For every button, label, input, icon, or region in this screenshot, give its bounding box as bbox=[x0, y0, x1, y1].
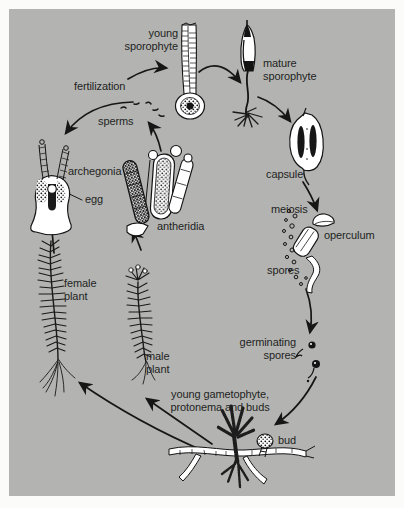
label-young-sporophyte: young sporophyte bbox=[116, 27, 178, 52]
drawing-operculum bbox=[291, 214, 334, 293]
drawing-protonema bbox=[169, 406, 315, 487]
drawing-archegonia bbox=[31, 140, 72, 235]
label-female-plant: female plant bbox=[64, 277, 96, 302]
egg-cell bbox=[48, 185, 57, 194]
drawing-female-plant bbox=[38, 240, 75, 396]
arrow-germinating-spores-to-bud bbox=[276, 377, 316, 424]
arrow-antheridia-to-sperms bbox=[149, 123, 161, 151]
label-archegonia: archegonia bbox=[68, 165, 121, 178]
label-antheridia: antheridia bbox=[157, 220, 204, 233]
arrow-mature-sporophyte-to-capsule bbox=[258, 97, 290, 121]
label-germinating-spores: germinating spores bbox=[236, 336, 296, 361]
arrow-fertilization-to-young-sporophyte bbox=[128, 68, 166, 79]
label-young-gametophyte: young gametophyte, protonema and buds bbox=[166, 388, 274, 413]
diagram-artwork bbox=[0, 0, 404, 508]
figure-frame: young sporophyte mature sporophyte ferti… bbox=[0, 0, 404, 508]
label-male-plant: male plant bbox=[146, 350, 169, 375]
label-operculum: operculum bbox=[324, 229, 374, 242]
label-mature-sporophyte: mature sporophyte bbox=[263, 57, 316, 82]
drawing-mature-sporophyte bbox=[233, 20, 262, 127]
label-capsule: capsule bbox=[266, 168, 303, 181]
label-bud: bud bbox=[278, 434, 296, 447]
label-fertilization: fertilization bbox=[74, 80, 125, 93]
arrow-spores-to-germinating-spores bbox=[306, 289, 311, 332]
label-spores: spores bbox=[267, 264, 299, 277]
arrow-young-to-mature-sporophyte bbox=[199, 66, 240, 82]
drawing-germinating-spores bbox=[296, 341, 320, 382]
label-egg: egg bbox=[85, 193, 103, 206]
label-meiosis: meiosis bbox=[271, 203, 308, 216]
label-sperms: sperms bbox=[98, 115, 133, 128]
